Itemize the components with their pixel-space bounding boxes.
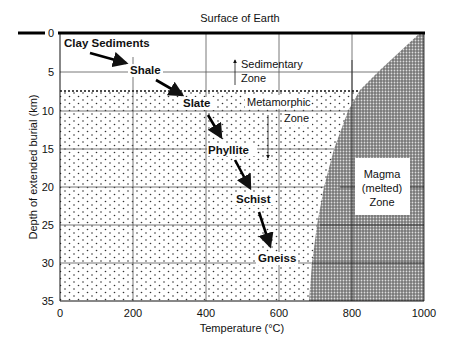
rock-gneiss: Gneiss — [258, 252, 296, 264]
rock-phyllite: Phyllite — [208, 144, 249, 156]
svg-text:25: 25 — [42, 219, 54, 231]
metamorphism-diagram: Surface of Earth 0 5 10 15 20 25 30 35 0… — [0, 0, 454, 348]
svg-text:400: 400 — [197, 307, 215, 319]
x-axis-label: Temperature (°C) — [200, 322, 284, 334]
x-tick-labels: 0 200 400 600 800 1000 — [57, 307, 436, 319]
svg-text:(melted): (melted) — [362, 182, 402, 194]
svg-text:Zone: Zone — [284, 112, 309, 124]
svg-text:Zone: Zone — [241, 72, 266, 84]
surface-title: Surface of Earth — [200, 12, 280, 24]
sedimentary-zone-label: Sedimentary Zone — [235, 58, 303, 85]
svg-text:5: 5 — [48, 66, 54, 78]
svg-text:1000: 1000 — [412, 307, 436, 319]
svg-text:35: 35 — [42, 295, 54, 307]
rock-slate: Slate — [183, 97, 211, 109]
svg-text:Metamorphic: Metamorphic — [247, 96, 311, 108]
y-axis-label: Depth of extended burial (km) — [27, 95, 39, 240]
svg-text:30: 30 — [42, 257, 54, 269]
svg-text:200: 200 — [124, 307, 142, 319]
magma-zone-label: Magma (melted) Zone — [355, 158, 410, 215]
arrow-icon — [90, 53, 126, 63]
y-tick-labels: 0 5 10 15 20 25 30 35 — [42, 27, 54, 307]
rock-schist: Schist — [236, 193, 271, 205]
svg-text:Sedimentary: Sedimentary — [241, 58, 303, 70]
svg-text:20: 20 — [42, 181, 54, 193]
svg-text:0: 0 — [48, 27, 54, 39]
svg-text:Zone: Zone — [369, 196, 394, 208]
svg-text:15: 15 — [42, 143, 54, 155]
rock-clay-sediments: Clay Sediments — [64, 37, 150, 49]
svg-text:800: 800 — [343, 307, 361, 319]
svg-text:0: 0 — [57, 307, 63, 319]
svg-text:10: 10 — [42, 105, 54, 117]
svg-text:600: 600 — [270, 307, 288, 319]
rock-shale: Shale — [130, 64, 161, 76]
svg-text:Magma: Magma — [364, 168, 402, 180]
